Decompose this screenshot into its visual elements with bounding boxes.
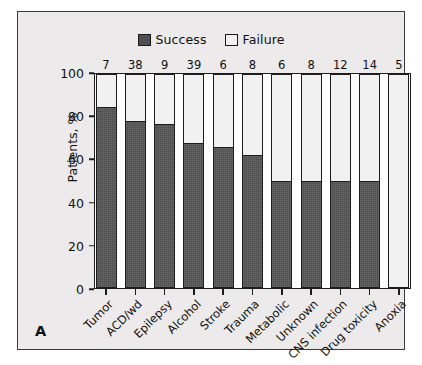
bar-column[interactable]: 8 <box>242 74 263 288</box>
bar-segment-success <box>155 124 174 287</box>
legend-swatch-success-icon <box>138 34 151 46</box>
y-axis-tick-mark <box>89 202 94 204</box>
bar-segment-success <box>331 181 350 288</box>
bar-count-label: 6 <box>220 58 227 72</box>
bar-count-label: 9 <box>161 58 168 72</box>
bar-segment-success <box>184 143 203 287</box>
bar-stack <box>183 74 204 288</box>
legend-label-failure: Failure <box>243 32 285 47</box>
y-axis-tick-label: 0 <box>24 282 84 297</box>
bar-count-label: 5 <box>395 58 402 72</box>
legend-swatch-failure-icon <box>225 34 238 46</box>
bar-stack <box>271 74 292 288</box>
bar-count-label: 6 <box>278 58 285 72</box>
bar-count-label: 12 <box>333 58 348 72</box>
bar-column[interactable]: 5 <box>388 74 409 288</box>
y-axis-tick-mark <box>89 288 94 290</box>
bar-stack <box>242 74 263 288</box>
bar-stack <box>301 74 322 288</box>
legend-item-failure: Failure <box>225 32 285 47</box>
bar-stack <box>96 74 117 288</box>
bar-stack <box>125 74 146 288</box>
bar-segment-success <box>302 181 321 288</box>
bar-segment-success <box>243 155 262 287</box>
y-axis-tick-mark <box>89 245 94 247</box>
bar-series-container: 738939686812145 <box>96 74 410 288</box>
bar-column[interactable]: 39 <box>183 74 204 288</box>
bar-column[interactable]: 7 <box>96 74 117 288</box>
y-axis-tick-label: 100 <box>24 66 84 81</box>
x-axis-labels: TumorACD/wdEpilepsyAlcoholStrokeTraumaMe… <box>96 295 410 355</box>
y-axis-tick-mark <box>89 115 94 117</box>
bar-segment-failure <box>126 75 145 121</box>
bar-column[interactable]: 14 <box>359 74 380 288</box>
bar-segment-success <box>360 181 379 288</box>
y-axis-tick-label: 80 <box>24 109 84 124</box>
bar-count-label: 14 <box>362 58 377 72</box>
bar-count-label: 7 <box>102 58 109 72</box>
bar-segment-success <box>214 147 233 287</box>
y-axis-tick-label: 20 <box>24 238 84 253</box>
bar-segment-failure <box>155 75 174 124</box>
bar-count-label: 8 <box>307 58 314 72</box>
bar-segment-failure <box>97 75 116 107</box>
bar-segment-failure <box>272 75 291 181</box>
bar-stack <box>330 74 351 288</box>
bar-count-label: 38 <box>128 58 143 72</box>
bar-column[interactable]: 9 <box>154 74 175 288</box>
bar-segment-failure <box>184 75 203 143</box>
bar-segment-success <box>272 181 291 288</box>
y-axis-title: Patients, % <box>65 88 80 208</box>
bar-column[interactable]: 6 <box>271 74 292 288</box>
y-axis-tick-mark <box>89 72 94 74</box>
chart-legend: Success Failure <box>18 32 404 47</box>
bar-segment-failure <box>302 75 321 181</box>
bar-column[interactable]: 38 <box>125 74 146 288</box>
bar-column[interactable]: 12 <box>330 74 351 288</box>
panel-letter: A <box>35 323 46 339</box>
bar-segment-success <box>97 107 116 287</box>
bar-stack <box>154 74 175 288</box>
bar-segment-failure <box>360 75 379 181</box>
legend-item-success: Success <box>138 32 207 47</box>
bar-count-label: 39 <box>187 58 202 72</box>
y-axis-tick-mark <box>89 159 94 161</box>
bar-segment-failure <box>389 75 408 287</box>
figure-panel: Success Failure Patients, % 020406080100… <box>0 0 422 365</box>
legend-label-success: Success <box>156 32 207 47</box>
bar-column[interactable]: 8 <box>301 74 322 288</box>
chart-panel: Success Failure Patients, % 020406080100… <box>17 11 405 350</box>
y-axis-tick-label: 40 <box>24 195 84 210</box>
bar-segment-success <box>126 121 145 287</box>
bar-segment-failure <box>243 75 262 155</box>
x-axis-label-holder: Anoxia <box>388 295 409 355</box>
bar-column[interactable]: 6 <box>213 74 234 288</box>
bar-stack <box>359 74 380 288</box>
bar-count-label: 8 <box>249 58 256 72</box>
y-axis-tick-label: 60 <box>24 152 84 167</box>
bar-segment-failure <box>214 75 233 147</box>
bar-stack <box>213 74 234 288</box>
bar-stack <box>388 74 409 288</box>
bar-segment-failure <box>331 75 350 181</box>
